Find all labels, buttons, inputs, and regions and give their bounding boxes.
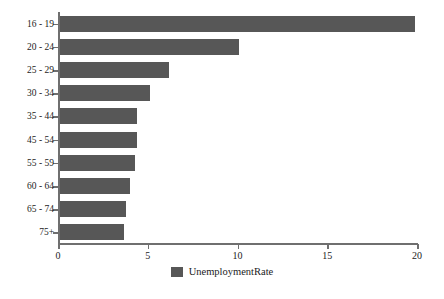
y-axis-label: 60 - 64	[27, 181, 54, 191]
y-axis-label: 65 - 74	[27, 204, 54, 214]
bar-chart: 16 - 1920 - 2425 - 2930 - 3435 - 4445 - …	[0, 0, 444, 299]
x-axis-label: 0	[56, 250, 61, 261]
chart-legend: UnemploymentRate	[0, 266, 444, 277]
bar-unemploymentrate	[58, 178, 130, 194]
y-axis-label: 45 - 54	[27, 135, 54, 145]
y-axis-label: 55 - 59	[27, 158, 54, 168]
legend-label-unemploymentrate: UnemploymentRate	[189, 266, 274, 277]
bar-unemploymentrate	[58, 132, 137, 148]
bar-unemploymentrate	[58, 155, 135, 171]
bar-row: 45 - 54	[58, 132, 417, 148]
bar-row: 75+	[58, 224, 417, 240]
x-axis-label: 10	[233, 250, 243, 261]
x-axis-label: 20	[412, 250, 422, 261]
bar-row: 20 - 24	[58, 39, 417, 55]
x-axis-tick	[148, 244, 150, 249]
y-axis-label: 30 - 34	[27, 88, 54, 98]
y-axis-label: 35 - 44	[27, 111, 54, 121]
bar-unemploymentrate	[58, 39, 239, 55]
bar-unemploymentrate	[58, 85, 150, 101]
x-axis-tick	[417, 244, 419, 249]
bar-unemploymentrate	[58, 224, 124, 240]
plot-area: 16 - 1920 - 2425 - 2930 - 3435 - 4445 - …	[58, 12, 417, 244]
x-axis-tick	[58, 244, 60, 249]
y-axis-label: 16 - 19	[27, 19, 54, 29]
bar-row: 60 - 64	[58, 178, 417, 194]
x-axis-tick	[327, 244, 329, 249]
x-axis-label: 5	[145, 250, 150, 261]
y-axis-label: 20 - 24	[27, 42, 54, 52]
bar-row: 25 - 29	[58, 62, 417, 78]
y-axis-label: 75+	[39, 227, 54, 237]
bar-row: 16 - 19	[58, 16, 417, 32]
bar-row: 55 - 59	[58, 155, 417, 171]
x-axis-ticks: 05101520	[58, 244, 418, 266]
bar-unemploymentrate	[58, 108, 137, 124]
bar-unemploymentrate	[58, 62, 169, 78]
bar-row: 35 - 44	[58, 108, 417, 124]
bar-unemploymentrate	[58, 201, 126, 217]
y-axis-label: 25 - 29	[27, 65, 54, 75]
bar-row: 30 - 34	[58, 85, 417, 101]
x-axis-tick	[238, 244, 240, 249]
x-axis-label: 15	[322, 250, 332, 261]
bar-row: 65 - 74	[58, 201, 417, 217]
legend-swatch-unemploymentrate	[171, 267, 183, 277]
y-axis-line	[58, 12, 60, 244]
bar-unemploymentrate	[58, 16, 415, 32]
